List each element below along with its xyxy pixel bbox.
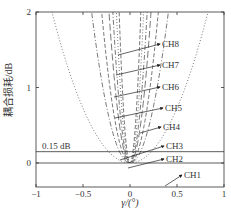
label-ch6: CH6 (162, 82, 180, 92)
y-tick-label: 1 (27, 83, 32, 93)
plot-frame (36, 12, 224, 187)
curve-ch5 (36, 0, 224, 163)
label-ch8: CH8 (162, 39, 180, 49)
curve-ch3 (36, 0, 224, 163)
label-ch1: CH1 (184, 170, 201, 180)
label-ch2: CH2 (166, 154, 183, 164)
x-tick-label: 1 (222, 189, 227, 199)
x-tick-label: −1 (31, 189, 41, 199)
x-tick-label: 0.5 (171, 189, 183, 199)
curve-labels: CH8CH7CH6CH5CH4CH3CH2CH1 (114, 39, 201, 186)
coupling-loss-chart: 0.15 dB −1−0.500.51012 CH8CH7CH6CH5CH4CH… (0, 0, 231, 210)
x-axis-label: γ/(°) (121, 197, 139, 209)
threshold-label: 0.15 dB (42, 141, 71, 151)
label-ch5: CH5 (165, 103, 183, 113)
x-tick-label: −0.5 (75, 189, 92, 199)
curve-ch4 (36, 0, 224, 163)
curve-ch7 (36, 0, 224, 163)
series-curves (36, 0, 224, 163)
y-tick-label: 0 (27, 158, 32, 168)
label-ch4: CH4 (163, 122, 181, 132)
curve-ch8 (36, 0, 224, 163)
y-axis-label: 耦合损耗/dB (2, 62, 14, 117)
label-ch3: CH3 (166, 141, 184, 151)
label-ch7: CH7 (162, 60, 180, 70)
curve-ch2 (36, 0, 224, 163)
y-tick-label: 2 (27, 7, 32, 17)
curve-ch6 (36, 0, 224, 163)
